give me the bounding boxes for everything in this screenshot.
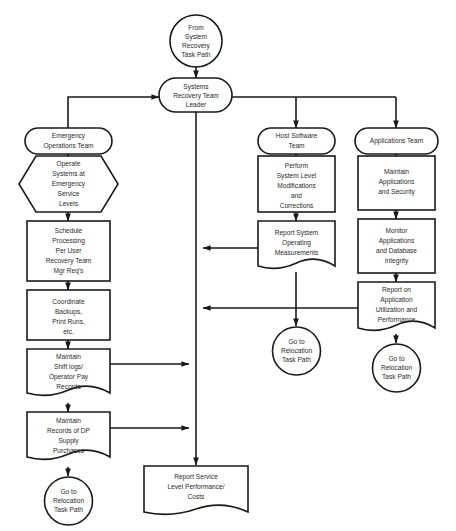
node-maintain-applications[interactable]: Maintain Applications and Security xyxy=(358,156,435,210)
node-goto-relocation-middle[interactable]: Go to Relocation Task Path xyxy=(273,327,321,375)
schedule-line-4: Mgr Req's xyxy=(54,267,85,275)
node-maintain-records-dp[interactable]: Maintain Records of DP Supply Purchases xyxy=(27,412,110,459)
coordinate-line-2: Print Runs, xyxy=(52,318,85,325)
host-team-line-0: Host Software xyxy=(276,132,318,139)
perform-line-4: Corrections xyxy=(280,202,314,209)
leader-line-1: Recovery Team xyxy=(173,92,219,100)
node-operate-systems[interactable]: Operate Systems at Emergency Service Lev… xyxy=(19,156,118,212)
from-system-recovery-line-0: From xyxy=(188,24,204,31)
monitorapps-line-2: and Database xyxy=(376,247,417,254)
node-perform-system-level[interactable]: Perform System Level Modifications and C… xyxy=(258,156,335,212)
operate-systems-line-0: Operate xyxy=(57,160,81,168)
dprecords-line-1: Records of DP xyxy=(47,427,90,434)
coordinate-line-0: Coordinate xyxy=(52,298,85,305)
goto-right-line-0: Go to xyxy=(388,355,404,362)
node-from-system-recovery[interactable]: From System Recovery Task Path xyxy=(170,15,222,67)
reportapp-line-1: Application xyxy=(380,296,413,304)
connectors xyxy=(68,67,396,476)
dprecords-line-0: Maintain xyxy=(56,417,81,424)
node-goto-relocation-left[interactable]: Go to Relocation Task Path xyxy=(45,477,93,525)
reportsys-line-2: Measurements xyxy=(275,249,319,256)
schedule-line-1: Processing xyxy=(52,237,85,245)
perform-line-2: Modifications xyxy=(277,182,316,189)
maintainapps-line-0: Maintain xyxy=(384,168,409,175)
dprecords-line-3: Purchases xyxy=(53,447,85,454)
emergency-team-line-1: Operations Team xyxy=(43,142,94,150)
schedule-line-3: Recovery Team xyxy=(46,257,92,265)
node-coordinate-backups[interactable]: Coordinate Backups, Print Runs, etc. xyxy=(27,290,110,340)
node-report-on-application[interactable]: Report on Application Utilization and Pe… xyxy=(358,282,435,330)
goto-middle-line-0: Go to xyxy=(288,338,304,345)
reportapp-line-2: Utilization and xyxy=(376,306,418,313)
report-service-line-1: Level Performance/ xyxy=(167,483,224,490)
reportsys-line-1: Operating xyxy=(282,239,311,247)
node-schedule-processing[interactable]: Schedule Processing Per User Recovery Te… xyxy=(27,221,110,281)
shiftlogs-line-1: Shift logs/ xyxy=(54,363,83,371)
leader-line-2: Leader xyxy=(186,101,207,108)
reportapp-line-0: Report on xyxy=(382,286,411,294)
shiftlogs-line-0: Maintain xyxy=(56,353,81,360)
coordinate-line-1: Backups, xyxy=(55,308,82,316)
goto-middle-line-2: Task Path xyxy=(282,356,311,363)
goto-middle-line-1: Relocation xyxy=(281,347,312,354)
flowchart-canvas: From System Recovery Task Path Systems R… xyxy=(0,0,456,531)
node-goto-relocation-right[interactable]: Go to Relocation Task Path xyxy=(373,344,421,392)
from-system-recovery-line-3: Task Path xyxy=(182,51,211,58)
report-service-line-2: Costs xyxy=(188,493,206,500)
report-service-line-0: Report Service xyxy=(174,473,218,481)
schedule-line-2: Per User xyxy=(55,247,82,254)
perform-line-0: Perform xyxy=(285,162,309,169)
maintainapps-line-2: and Security xyxy=(378,188,415,196)
shiftlogs-line-3: Records xyxy=(56,383,81,390)
operate-systems-line-2: Emergency xyxy=(52,180,86,188)
maintainapps-line-1: Applications xyxy=(379,178,415,186)
shiftlogs-line-2: Operator Pay xyxy=(49,373,89,381)
goto-right-line-1: Relocation xyxy=(381,364,412,371)
goto-right-line-2: Task Path xyxy=(382,373,411,380)
node-report-service-level[interactable]: Report Service Level Performance/ Costs xyxy=(144,466,248,514)
goto-left-line-0: Go to xyxy=(60,488,76,495)
monitorapps-line-1: Applications xyxy=(379,237,415,245)
from-system-recovery-line-2: Recovery xyxy=(182,42,211,50)
perform-line-1: System Level xyxy=(277,172,317,180)
operate-systems-line-1: Systems at xyxy=(52,170,85,178)
node-report-system-operating[interactable]: Report System Operating Measurements xyxy=(258,221,335,268)
dprecords-line-2: Supply xyxy=(58,437,79,445)
node-systems-recovery-team-leader[interactable]: Systems Recovery Team Leader xyxy=(159,78,232,112)
apps-team-line-0: Applications Team xyxy=(370,137,424,145)
reportsys-line-0: Report System xyxy=(275,229,319,237)
leader-line-0: Systems xyxy=(183,83,209,91)
operate-systems-line-4: Levels xyxy=(59,200,79,207)
schedule-line-0: Schedule xyxy=(55,227,83,234)
goto-left-line-2: Task Path xyxy=(54,506,83,513)
node-emergency-operations-team[interactable]: Emergency Operations Team xyxy=(25,128,112,154)
monitorapps-line-0: Monitor xyxy=(386,227,409,234)
emergency-team-line-0: Emergency xyxy=(52,132,86,140)
operate-systems-line-3: Service xyxy=(58,190,80,197)
perform-line-3: and xyxy=(291,192,302,199)
from-system-recovery-line-1: System xyxy=(185,33,207,41)
reportapp-line-3: Performance xyxy=(378,316,416,323)
node-host-software-team[interactable]: Host Software Team xyxy=(258,128,335,154)
host-team-line-1: Team xyxy=(288,142,305,149)
coordinate-line-3: etc. xyxy=(63,328,74,335)
node-monitor-applications[interactable]: Monitor Applications and Database Integr… xyxy=(358,219,435,273)
monitorapps-line-3: Integrity xyxy=(385,257,409,265)
conn-emergency-to-leader xyxy=(68,97,159,128)
goto-left-line-1: Relocation xyxy=(53,497,84,504)
node-applications-team[interactable]: Applications Team xyxy=(355,128,438,154)
node-maintain-shift-logs[interactable]: Maintain Shift logs/ Operator Pay Record… xyxy=(27,349,110,395)
